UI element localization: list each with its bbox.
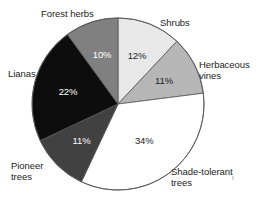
pie-category-label-herbaceous-vines-line2: vines	[199, 70, 250, 81]
pie-category-label-pioneer-trees: Pioneer trees	[11, 160, 43, 182]
pie-category-label-shrubs-line1: Shrubs	[160, 17, 190, 28]
pie-category-label-shade-tolerant-trees-line2: trees	[171, 177, 233, 188]
pie-category-label-forest-herbs-line1: Forest herbs	[41, 8, 94, 19]
pie-category-label-herbaceous-vines: Herbaceous vines	[199, 59, 250, 81]
pie-value-label-shade-tolerant-trees: 34%	[135, 135, 154, 146]
pie-value-label-herbaceous-vines: 11%	[155, 75, 174, 86]
pie-value-label-pioneer-trees: 11%	[72, 135, 91, 146]
pie-category-label-lianas-line1: Lianas	[8, 68, 36, 79]
pie-value-label-lianas: 22%	[59, 86, 78, 97]
pie-category-label-pioneer-trees-line1: Pioneer	[11, 160, 43, 171]
pie-category-label-shade-tolerant-trees: Shade-tolerant trees	[171, 166, 233, 188]
pie-slices	[32, 18, 204, 190]
pie-value-label-forest-herbs: 10%	[93, 49, 112, 60]
pie-category-label-shrubs: Shrubs	[160, 17, 190, 28]
pie-value-label-shrubs: 12%	[128, 50, 147, 61]
pie-category-label-pioneer-trees-line2: trees	[11, 171, 43, 182]
pie-category-label-forest-herbs: Forest herbs	[41, 8, 94, 19]
pie-chart: 12%11%34%11%22%10% Forest herbs Shrubs H…	[0, 0, 259, 203]
scan-artifact	[232, 176, 234, 180]
pie-category-label-shade-tolerant-trees-line1: Shade-tolerant	[171, 166, 233, 177]
pie-category-label-lianas: Lianas	[8, 68, 36, 79]
pie-category-label-herbaceous-vines-line1: Herbaceous	[199, 59, 250, 70]
